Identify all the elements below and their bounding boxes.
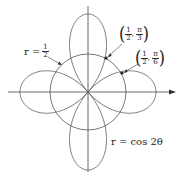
fraction: 12 — [42, 44, 48, 59]
leader-arrow-icon — [107, 53, 112, 58]
intersection-point-pi-3 — [104, 56, 107, 59]
point-label-pi-3: ( 12 , π3 ) — [119, 26, 149, 42]
polar-diagram — [0, 0, 182, 176]
rose-equation-label: r = cos 2θ — [111, 137, 163, 147]
circle-label: r = 12 — [24, 44, 49, 59]
denominator: 6 — [153, 59, 157, 66]
denominator: 2 — [43, 52, 47, 59]
denominator: 2 — [126, 35, 130, 42]
point-label-pi-6: ( 12 , π6 ) — [135, 50, 165, 66]
denominator: 3 — [137, 35, 141, 42]
leader-pi-3 — [109, 44, 122, 56]
x-axis-arrow-icon — [169, 90, 176, 95]
circle-label-prefix: r = — [24, 47, 40, 57]
intersection-point-pi-6 — [120, 71, 123, 74]
leader-circle — [48, 57, 60, 64]
separator: , — [132, 30, 134, 38]
axes — [8, 6, 176, 172]
separator: , — [148, 54, 150, 62]
denominator: 2 — [142, 59, 146, 66]
